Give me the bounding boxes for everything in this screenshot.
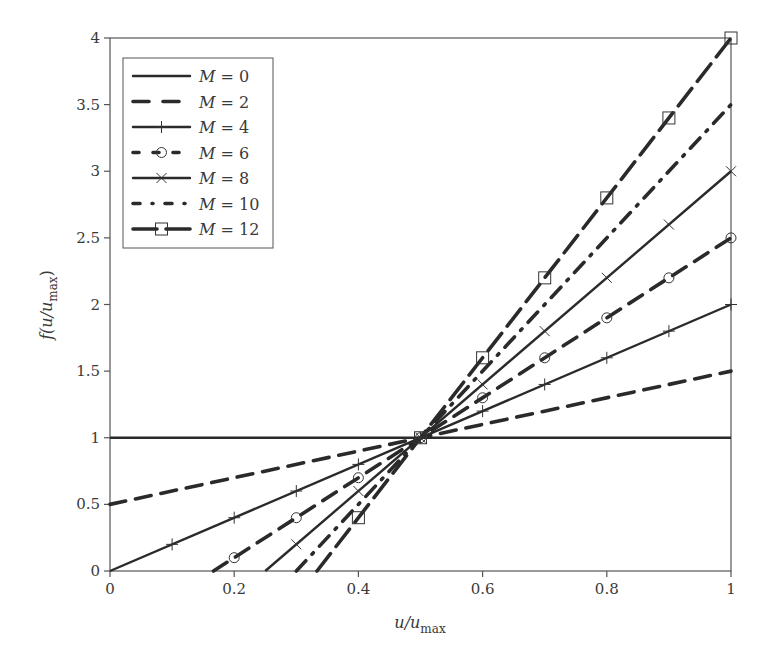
x-tick-label: 0.8 — [595, 580, 619, 598]
circle-marker — [664, 273, 674, 283]
y-tick-label: 2 — [90, 296, 100, 314]
x-tick-label: 0.6 — [471, 580, 495, 598]
plus-marker — [477, 405, 489, 417]
cross-marker — [540, 326, 550, 336]
cross-marker — [664, 220, 674, 230]
plus-marker — [290, 485, 302, 497]
legend-label: M = 12 — [198, 220, 259, 239]
series-line-m12 — [317, 38, 731, 571]
x-axis-ticks: 00.20.40.60.81 — [105, 571, 736, 598]
y-tick-label: 3 — [90, 162, 100, 180]
legend-label: M = 0 — [198, 67, 249, 86]
plus-marker — [539, 378, 551, 390]
legend-label: M = 4 — [198, 118, 249, 137]
y-tick-label: 0 — [90, 562, 100, 580]
cross-marker — [602, 273, 612, 283]
y-axis-ticks: 00.511.522.533.54 — [76, 29, 110, 580]
series-line-m6 — [214, 238, 732, 571]
y-tick-label: 0.5 — [76, 495, 100, 513]
cross-marker — [353, 486, 363, 496]
legend: M = 0M = 2M = 4M = 6M = 8M = 10M = 12 — [123, 58, 273, 248]
x-tick-label: 1 — [726, 580, 736, 598]
plus-marker — [663, 325, 675, 337]
legend-label: M = 10 — [198, 195, 259, 214]
y-tick-label: 3.5 — [76, 96, 100, 114]
y-tick-label: 1.5 — [76, 362, 100, 380]
x-tick-label: 0.4 — [346, 580, 370, 598]
y-tick-label: 2.5 — [76, 229, 100, 247]
x-tick-label: 0.2 — [222, 580, 246, 598]
legend-label: M = 2 — [198, 93, 249, 112]
plus-marker — [166, 538, 178, 550]
cross-marker — [291, 539, 301, 549]
plus-marker — [725, 299, 737, 311]
y-tick-label: 4 — [90, 29, 100, 47]
x-axis-label: u/umax — [394, 613, 446, 636]
x-tick-label: 0 — [105, 580, 115, 598]
y-tick-label: 1 — [90, 429, 100, 447]
series-line-m8 — [265, 171, 731, 571]
plus-marker — [601, 352, 613, 364]
line-chart: 00.511.522.533.54 00.20.40.60.81 u/umax … — [0, 0, 773, 651]
legend-label: M = 6 — [198, 144, 249, 163]
plus-marker — [352, 458, 364, 470]
series-line-m10 — [296, 105, 731, 571]
legend-label: M = 8 — [198, 169, 249, 188]
cross-marker — [478, 379, 488, 389]
y-axis-label: f(u/umax) — [37, 270, 60, 341]
plus-marker — [228, 512, 240, 524]
